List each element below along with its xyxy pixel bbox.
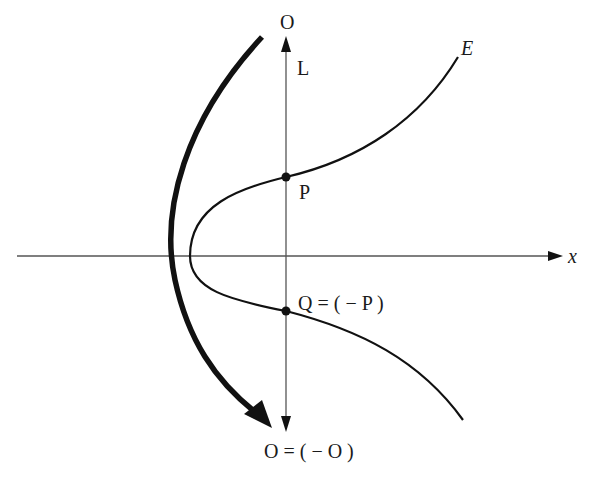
label-top-O: O [280,11,294,33]
vertical-line-L [281,36,291,432]
point-Q-dot [282,307,291,316]
point-P-dot [282,173,291,182]
diagram-canvas: O L E P Q = ( − P ) O = ( − O ) x [0,0,589,484]
label-P: P [299,181,310,203]
label-E: E [460,37,473,59]
thick-curved-arrow [171,37,272,428]
label-Q: Q = ( − P ) [298,292,384,315]
x-axis-arrow-icon [548,251,563,261]
line-down-arrow-icon [281,416,291,432]
curve-E [190,57,463,420]
label-L: L [297,57,309,79]
x-axis [17,251,563,261]
label-bottom-O: O = ( − O ) [264,440,354,463]
line-up-arrow-icon [281,36,291,52]
label-x-axis: x [567,245,577,267]
